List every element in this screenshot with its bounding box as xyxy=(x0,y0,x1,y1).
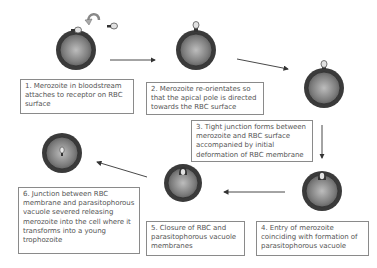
step-4-label-box: 4. Entry of merozoite coinciding with fo… xyxy=(256,221,369,256)
rotation-arrow-icon xyxy=(85,14,99,25)
merozoite-icon xyxy=(107,23,118,29)
rbc-cell-step-1 xyxy=(56,30,96,70)
invasion-diagram: 1. Merozoite in bloodstream attaches to … xyxy=(0,0,377,268)
step-1-text: 1. Merozoite in bloodstream attaches to … xyxy=(25,82,123,108)
step-1-label-box: 1. Merozoite in bloodstream attaches to … xyxy=(20,79,134,114)
step-2-text: 2. Merozoite re-orientates so that the a… xyxy=(151,85,256,111)
step-4-text: 4. Entry of merozoite coinciding with fo… xyxy=(261,224,357,250)
rbc-cell-step-3 xyxy=(304,61,344,109)
step-3-label-box: 3. Tight junction forms between merozoit… xyxy=(191,120,313,162)
rbc-cell-step-4 xyxy=(302,171,342,211)
step-6-text: 6. Junction between RBC membrane and par… xyxy=(23,190,134,244)
step-5-text: 5. Closure of RBC and parasitophorous va… xyxy=(151,224,236,250)
arrow-5-to-6 xyxy=(97,162,147,177)
step-5-label-box: 5. Closure of RBC and parasitophorous va… xyxy=(146,221,245,256)
step-2-label-box: 2. Merozoite re-orientates so that the a… xyxy=(146,82,264,115)
arrow-2-to-3 xyxy=(237,59,288,69)
rbc-cell-step-6 xyxy=(42,133,82,173)
rbc-cell-step-5 xyxy=(164,164,202,202)
step-6-label-box: 6. Junction between RBC membrane and par… xyxy=(18,187,140,254)
step-3-text: 3. Tight junction forms between merozoit… xyxy=(196,123,306,159)
rbc-cell-step-2 xyxy=(176,22,216,71)
